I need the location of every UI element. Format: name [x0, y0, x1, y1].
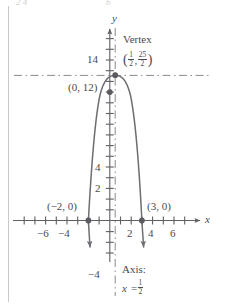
axis-note-denominator: 2: [138, 287, 144, 296]
y-tick-label-4: 4: [95, 162, 101, 173]
x-tick-label-neg4: −4: [58, 228, 70, 239]
y-tick-label-2: 2: [95, 183, 101, 194]
axis-note-title: Axis:: [122, 264, 146, 275]
y-tick-label-14: 14: [87, 54, 98, 65]
vertex-open-paren: (: [123, 52, 128, 67]
point-vertex: [112, 72, 118, 78]
axis-note-fraction: 12: [138, 279, 144, 296]
point-y-intercept: [107, 89, 113, 95]
axis-note-equation: x =12: [122, 279, 146, 297]
vertex-x-denominator: 2: [128, 59, 134, 68]
point-right-root: [139, 218, 145, 224]
axis-of-symmetry-annotation: Axis: x =12: [122, 264, 146, 297]
vertex-coordinates: (12,252): [123, 49, 152, 69]
y-tick-label-neg4: −4: [88, 269, 100, 280]
x-tick-label-4: 4: [148, 228, 154, 239]
figure-page: 2 4 b: [0, 0, 234, 304]
right-root-annotation: (3, 0): [147, 201, 171, 212]
vertex-close-paren: ): [148, 52, 153, 67]
vertex-annotation: Vertex (12,252): [123, 33, 152, 69]
vertex-y-numerator: 25: [138, 51, 148, 59]
axis-note-variable: x: [122, 282, 127, 294]
left-root-annotation: (−2, 0): [47, 201, 77, 212]
parabola-left-ray: [88, 221, 90, 248]
vertex-x-numerator: 1: [128, 51, 134, 59]
vertex-y-fraction: 252: [138, 51, 148, 68]
coordinate-plane: [0, 0, 234, 304]
x-axis-label: x: [205, 214, 210, 225]
y-intercept-annotation: (0, 12): [68, 82, 97, 93]
parabola-right-ray: [142, 221, 144, 248]
axis-note-equals: =: [131, 282, 137, 294]
vertex-y-denominator: 2: [138, 59, 148, 68]
x-tick-label-2: 2: [127, 228, 133, 239]
x-axis: [13, 217, 200, 225]
y-axis-label: y: [112, 13, 117, 24]
point-left-root: [86, 218, 92, 224]
vertex-x-fraction: 12: [128, 51, 134, 68]
axis-note-numerator: 1: [138, 279, 144, 287]
x-tick-label-6: 6: [170, 228, 176, 239]
y-axis: [106, 29, 114, 262]
vertex-annotation-title: Vertex: [123, 33, 152, 47]
x-tick-label-neg6: −6: [37, 228, 49, 239]
